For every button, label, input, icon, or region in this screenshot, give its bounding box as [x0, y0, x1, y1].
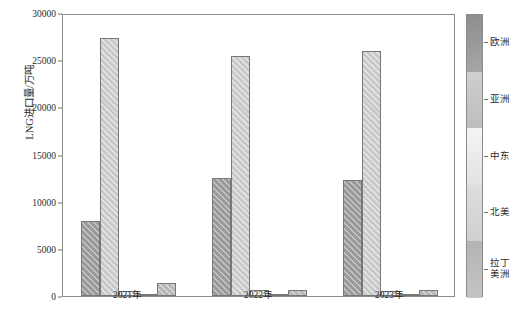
plot-area: [62, 14, 455, 297]
legend-label-line: 美洲: [490, 269, 510, 280]
legend-colorbar: [466, 14, 483, 297]
bar-欧洲-2023年: [343, 180, 362, 297]
legend-swatch-欧洲: [467, 15, 482, 72]
legend-label-中东: 中东: [490, 150, 510, 161]
legend-swatch-亚洲: [467, 72, 482, 129]
x-tick-label: 2023年: [375, 287, 404, 301]
legend-swatch-拉丁美洲: [467, 241, 482, 298]
x-tick-label: 2022年: [244, 287, 273, 301]
bar-欧洲-2022年: [212, 178, 231, 296]
bar-欧洲-2021年: [81, 221, 100, 296]
legend-label-拉丁美洲: 拉丁美洲: [490, 258, 510, 280]
legend-swatch-中东: [467, 128, 482, 185]
legend-label-line: 拉丁: [490, 258, 510, 269]
legend-label-欧洲: 欧洲: [490, 37, 510, 48]
y-tick-label: 30000: [22, 9, 56, 19]
bar-拉丁美洲-2021年: [157, 283, 176, 296]
bar-拉丁美洲-2022年: [288, 290, 307, 296]
y-tick-label: 0: [22, 292, 56, 302]
legend-label-亚洲: 亚洲: [490, 93, 510, 104]
bar-拉丁美洲-2023年: [419, 290, 438, 296]
bar-亚洲-2022年: [231, 56, 250, 296]
legend-label-北美: 北美: [490, 207, 510, 218]
y-tick-label: 25000: [22, 56, 56, 66]
y-tick-label: 20000: [22, 103, 56, 113]
legend-tick-mark: [484, 156, 488, 157]
legend-tick-mark: [484, 99, 488, 100]
y-tick-label: 5000: [22, 245, 56, 255]
legend-tick-mark: [484, 269, 488, 270]
bar-亚洲-2023年: [362, 51, 381, 296]
legend-swatch-北美: [467, 185, 482, 242]
y-tick-label: 15000: [22, 151, 56, 161]
bars-container: [63, 15, 454, 296]
x-tick-label: 2021年: [113, 287, 142, 301]
chart-figure: LNG进口量/万吨 050001000015000200002500030000…: [0, 0, 516, 327]
bar-亚洲-2021年: [100, 38, 119, 296]
legend-tick-mark: [484, 212, 488, 213]
legend-tick-mark: [484, 42, 488, 43]
y-tick-label: 10000: [22, 198, 56, 208]
